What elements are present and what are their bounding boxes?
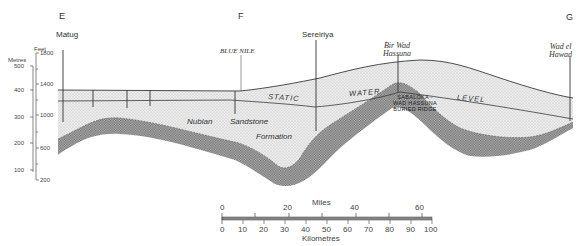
water-level-static: STATIC — [268, 93, 300, 103]
km-tick-40: 40 — [301, 226, 310, 234]
feet-tick-200: 200 — [40, 177, 50, 183]
feet-tick-1000: 1000 — [40, 112, 53, 118]
km-tick-20: 20 — [259, 226, 268, 234]
section-marker-g: G — [566, 13, 573, 22]
miles-tick-40: 40 — [350, 204, 359, 212]
km-tick-90: 90 — [406, 226, 415, 234]
metres-tick-500: 500 — [14, 63, 24, 69]
miles-tick-60: 60 — [415, 204, 424, 212]
km-tick-50: 50 — [322, 226, 331, 234]
feet-tick-1400: 1400 — [40, 81, 53, 87]
place-bir-wad-hassuna: Bir Wad Hassuna — [383, 42, 411, 58]
km-tick-10: 10 — [238, 226, 247, 234]
place-wad-el-hawad: Wad el Hawad — [549, 43, 572, 59]
km-tick-70: 70 — [364, 226, 373, 234]
formation-sandstone: Sandstone — [230, 118, 268, 126]
km-tick-30: 30 — [280, 226, 289, 234]
cross-section-diagram — [0, 0, 585, 246]
formation-nubian: Nubian — [187, 118, 212, 126]
miles-tick-0: 0 — [220, 204, 224, 212]
place-blue-nile: BLUE NILE — [220, 48, 254, 55]
km-tick-60: 60 — [343, 226, 352, 234]
km-tick-80: 80 — [385, 226, 394, 234]
feet-axis — [36, 53, 39, 180]
km-tick-100: 100 — [424, 226, 437, 234]
section-marker-e: E — [59, 12, 65, 21]
scale-km-title: Kilometres — [302, 235, 340, 243]
metres-tick-200: 200 — [14, 140, 24, 146]
section-marker-f: F — [238, 12, 244, 21]
km-tick-0: 0 — [220, 226, 224, 234]
buried-ridge-label: SABALOKA - WAD HASSUNA BURIED RIDGE — [393, 95, 437, 112]
scale-bar — [222, 213, 432, 224]
metres-axis — [30, 66, 33, 172]
place-matug: Matug — [56, 31, 78, 39]
metres-tick-400: 400 — [14, 87, 24, 93]
formation-formation: Formation — [256, 133, 292, 141]
miles-tick-20: 20 — [283, 204, 292, 212]
feet-tick-1800: 1800 — [40, 50, 53, 56]
place-sereiriya: Sereiriya — [302, 31, 334, 39]
scale-miles-title: Miles — [312, 199, 331, 207]
metres-tick-300: 300 — [14, 114, 24, 120]
metres-tick-100: 100 — [14, 167, 24, 173]
feet-tick-600: 600 — [40, 145, 50, 151]
